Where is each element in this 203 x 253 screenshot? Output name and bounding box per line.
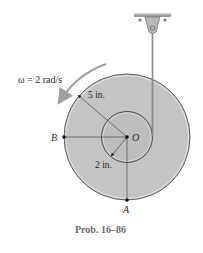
omega-label: ω = 2 rad/s [18,74,62,85]
point-o-dot [125,135,129,139]
figure-caption: Prob. 16–86 [75,224,126,235]
point-a-label: A [122,204,130,215]
inner-radius-label: 2 in. [95,160,112,170]
point-b-label: B [51,132,57,143]
ceiling-support [134,13,171,34]
point-b-dot [62,135,66,139]
outer-radius-label: 5 in. [88,90,105,100]
point-o-label: O [132,132,139,143]
pulley-diagram: ω = 2 rad/s 5 in. 2 in. B O A Prob. 16–8… [0,0,203,253]
point-a-dot [125,198,129,202]
